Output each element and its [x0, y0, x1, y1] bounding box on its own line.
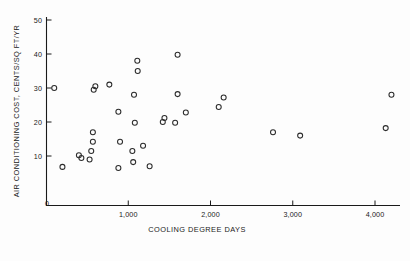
data-point [60, 164, 65, 169]
data-point [89, 148, 94, 153]
data-point [183, 110, 188, 115]
y-axis-title: AIR CONDITIONING COST, CENTS/SQ FT/YR [12, 25, 21, 198]
data-point [141, 143, 146, 148]
data-point [221, 95, 226, 100]
data-point [135, 69, 140, 74]
data-point [87, 157, 92, 162]
x-axis-ticks [128, 201, 375, 206]
data-point [90, 130, 95, 135]
data-point [298, 133, 303, 138]
data-point [216, 105, 221, 110]
data-point [389, 92, 394, 97]
x-axis-tick-labels: 1,0002,0003,0004,000 [119, 210, 384, 219]
data-point [173, 120, 178, 125]
data-point [116, 109, 121, 114]
data-point [107, 82, 112, 87]
data-point [116, 165, 121, 170]
x-axis-title: COOLING DEGREE DAYS [148, 225, 246, 234]
data-point [132, 92, 137, 97]
data-point [131, 160, 136, 165]
data-point [135, 58, 140, 63]
x-tick-label: 4,000 [366, 210, 385, 219]
scatter-plot-figure: 01020304050 1,0002,0003,0004,000 COOLING… [0, 0, 410, 261]
data-point [175, 92, 180, 97]
scatter-series [52, 52, 394, 170]
x-tick-label: 1,000 [119, 210, 138, 219]
y-tick-label: 10 [34, 152, 42, 161]
y-tick-label: 30 [34, 84, 42, 93]
data-point [52, 86, 57, 91]
x-tick-label: 2,000 [201, 210, 220, 219]
y-tick-label: 0 [45, 199, 49, 208]
y-tick-label: 20 [34, 118, 42, 127]
data-point [147, 164, 152, 169]
axes-group [46, 17, 400, 206]
data-point [383, 126, 388, 131]
data-point [90, 139, 95, 144]
data-point [130, 148, 135, 153]
data-point [175, 52, 180, 57]
data-point [271, 130, 276, 135]
y-axis-ticks [47, 20, 52, 156]
data-point [132, 120, 137, 125]
x-tick-label: 3,000 [284, 210, 303, 219]
y-tick-label: 50 [34, 16, 42, 25]
y-tick-label: 40 [34, 50, 42, 59]
plot-canvas: 01020304050 1,0002,0003,0004,000 COOLING… [0, 0, 410, 261]
data-point [118, 139, 123, 144]
